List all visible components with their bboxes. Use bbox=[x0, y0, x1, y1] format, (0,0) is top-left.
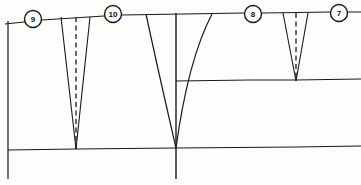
lower-stratum-line bbox=[8, 146, 361, 150]
station-marker-label: 7 bbox=[337, 9, 342, 18]
station-marker-label: 10 bbox=[109, 10, 118, 19]
wedge-left-edge bbox=[283, 13, 296, 81]
station-9: 9 bbox=[25, 11, 42, 28]
station-7: 7 bbox=[331, 5, 348, 22]
diagram-canvas: 91087 bbox=[0, 0, 361, 185]
wedge-left-edge bbox=[146, 14, 176, 148]
mid-stratum-line bbox=[176, 79, 361, 81]
station-marker-label: 9 bbox=[31, 15, 36, 24]
cross-section-diagram: 91087 bbox=[0, 0, 361, 185]
station-8: 8 bbox=[245, 6, 262, 23]
wedge-right bbox=[283, 13, 308, 81]
wedge-right-edge bbox=[296, 13, 308, 81]
wedge-left-edge bbox=[61, 17, 76, 149]
wedge-left bbox=[61, 17, 90, 149]
station-markers: 91087 bbox=[25, 5, 348, 28]
station-10: 10 bbox=[105, 6, 122, 23]
station-marker-label: 8 bbox=[251, 10, 256, 19]
wedge-right-edge bbox=[76, 17, 90, 149]
